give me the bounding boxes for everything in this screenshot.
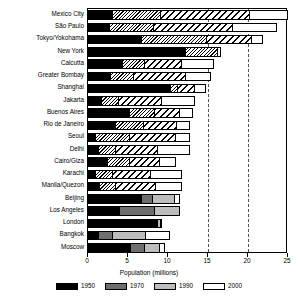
category-label: Tokyo/Yokohama xyxy=(36,35,84,41)
category-label: Cairo/Giza xyxy=(54,158,84,164)
bar-segment-1950 xyxy=(88,182,100,191)
bar-row xyxy=(88,194,286,203)
category-label: Seoul xyxy=(68,133,84,139)
legend-swatch-1990 xyxy=(154,283,176,290)
category-label: Karachi xyxy=(63,170,84,176)
legend-item-1970[interactable]: 1970 xyxy=(105,283,144,290)
category-label: Delhi xyxy=(70,146,84,152)
bar-row xyxy=(88,108,286,117)
bar-row xyxy=(88,219,286,228)
bar-segment-1950 xyxy=(88,133,96,142)
bar-segment-1950 xyxy=(88,72,111,81)
plot-area xyxy=(87,8,287,253)
category-label: Mexico City xyxy=(51,11,84,17)
category-label: New York xyxy=(57,48,84,54)
category-label: Manila/Quezon xyxy=(42,182,84,188)
category-label: Calcutta xyxy=(61,60,84,66)
bar-row xyxy=(88,10,286,19)
category-label: Rio de Janeiro xyxy=(43,121,84,127)
bar-row xyxy=(88,72,286,81)
bar-row xyxy=(88,84,286,93)
bar-row xyxy=(88,59,286,68)
bar-segment-1950 xyxy=(88,35,142,44)
category-label: Beijing xyxy=(65,195,84,201)
legend-label: 1950 xyxy=(81,283,95,289)
legend-swatch-1950 xyxy=(56,283,78,290)
bar-row xyxy=(88,145,286,154)
x-tick-label: 20 xyxy=(243,258,250,265)
chart-legend: 1950197019902000 xyxy=(0,283,298,290)
x-tick-label: 0 xyxy=(85,258,89,265)
bar-row xyxy=(88,206,286,215)
bar-row xyxy=(88,47,286,56)
bar-row xyxy=(88,133,286,142)
population-bar-chart: Mexico CitySão PauloTokyo/YokohamaNew Yo… xyxy=(0,0,298,301)
bar-row xyxy=(88,182,286,191)
legend-item-1950[interactable]: 1950 xyxy=(56,283,95,290)
bar-row xyxy=(88,96,286,105)
category-label: Jakarta xyxy=(63,97,84,103)
bar-row xyxy=(88,243,286,252)
category-label: Los Angeles xyxy=(50,207,84,213)
category-label: Greater Bombay xyxy=(38,72,84,78)
bar-segment-1950 xyxy=(88,23,110,32)
legend-swatch-1970 xyxy=(105,283,127,290)
bar-segment-1950 xyxy=(88,121,116,130)
legend-label: 2000 xyxy=(228,283,242,289)
bar-segment-1950 xyxy=(88,157,108,166)
bar-row xyxy=(88,23,286,32)
legend-swatch-2000 xyxy=(203,283,225,290)
x-tick-label: 25 xyxy=(283,258,290,265)
bar-segment-1950 xyxy=(88,206,120,215)
bar-row xyxy=(88,170,286,179)
bar-segment-1950 xyxy=(88,231,99,240)
x-tick-label: 10 xyxy=(163,258,170,265)
bar-segment-1950 xyxy=(88,10,113,19)
bar-segment-1950 xyxy=(88,108,130,117)
legend-item-1990[interactable]: 1990 xyxy=(154,283,193,290)
x-tick-label: 15 xyxy=(203,258,210,265)
category-label: London xyxy=(63,219,84,225)
bar-segment-1950 xyxy=(88,47,186,56)
bar-segment-1950 xyxy=(88,96,102,105)
category-label: Buenos Aires xyxy=(47,109,84,115)
bar-segment-1950 xyxy=(88,219,158,228)
category-label: Bangkok xyxy=(59,231,84,237)
bar-row xyxy=(88,157,286,166)
bar-segment-1950 xyxy=(88,59,123,68)
bar-row xyxy=(88,35,286,44)
legend-item-2000[interactable]: 2000 xyxy=(203,283,242,290)
bar-row xyxy=(88,231,286,240)
bar-segment-1950 xyxy=(88,243,131,252)
bar-segment-1950 xyxy=(88,170,96,179)
category-label: Shanghai xyxy=(57,84,84,90)
category-axis-labels: Mexico CitySão PauloTokyo/YokohamaNew Yo… xyxy=(0,8,84,253)
bar-row xyxy=(88,121,286,130)
category-label: São Paulo xyxy=(55,23,84,29)
legend-label: 1970 xyxy=(130,283,144,289)
category-label: Moscow xyxy=(61,244,84,250)
bar-segment-1950 xyxy=(88,84,171,93)
x-tick-label: 5 xyxy=(125,258,129,265)
x-axis-title: Population (millions) xyxy=(0,270,298,277)
bar-segment-1950 xyxy=(88,194,142,203)
bar-segment-1950 xyxy=(88,145,99,154)
legend-label: 1990 xyxy=(179,283,193,289)
